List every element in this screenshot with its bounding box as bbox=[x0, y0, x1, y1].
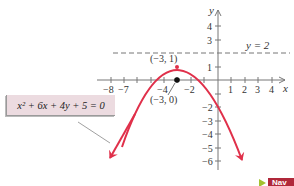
y-tick-neg2: −2 bbox=[202, 102, 213, 113]
y-tick-1: 1 bbox=[207, 62, 212, 73]
y-tick-neg5: −5 bbox=[202, 143, 213, 154]
y-tick-neg3: −3 bbox=[202, 116, 213, 127]
x-tick-3: 3 bbox=[255, 84, 260, 95]
y-tick-neg6: −6 bbox=[202, 156, 213, 167]
y-tick-3: 3 bbox=[207, 35, 212, 46]
y-tick-neg4: −4 bbox=[202, 129, 213, 140]
parabola-graph: −8 −7 −4 −2 1 2 3 4 4 3 1 −2 −3 −4 −5 −6… bbox=[0, 0, 294, 186]
x-tick-2: 2 bbox=[242, 84, 247, 95]
vertex-label: (−3, 1) bbox=[150, 53, 177, 65]
focus-point bbox=[174, 77, 180, 83]
x-tick-1: 1 bbox=[228, 84, 233, 95]
x-tick-neg7: −7 bbox=[118, 84, 129, 95]
x-axis-label: x bbox=[282, 82, 288, 94]
focus-label: (−3, 0) bbox=[150, 94, 177, 106]
parabola-left-arrow bbox=[110, 114, 135, 158]
vertex-point bbox=[175, 65, 179, 69]
x-tick-4: 4 bbox=[269, 84, 274, 95]
x-tick-neg2: −2 bbox=[184, 84, 195, 95]
y-axis-label: y bbox=[208, 4, 214, 16]
parabola-curve bbox=[122, 70, 242, 160]
directrix-label: y = 2 bbox=[245, 39, 270, 51]
equation-leader-line bbox=[78, 122, 110, 143]
y-tick-4: 4 bbox=[207, 21, 212, 32]
nav-button[interactable]: Nav bbox=[268, 178, 294, 186]
x-tick-neg8: −8 bbox=[103, 84, 114, 95]
nav-arrow-icon[interactable] bbox=[259, 179, 266, 186]
equation-text: x² + 6x + 4y + 5 = 0 bbox=[17, 100, 104, 111]
equation-box: x² + 6x + 4y + 5 = 0 bbox=[6, 95, 115, 116]
